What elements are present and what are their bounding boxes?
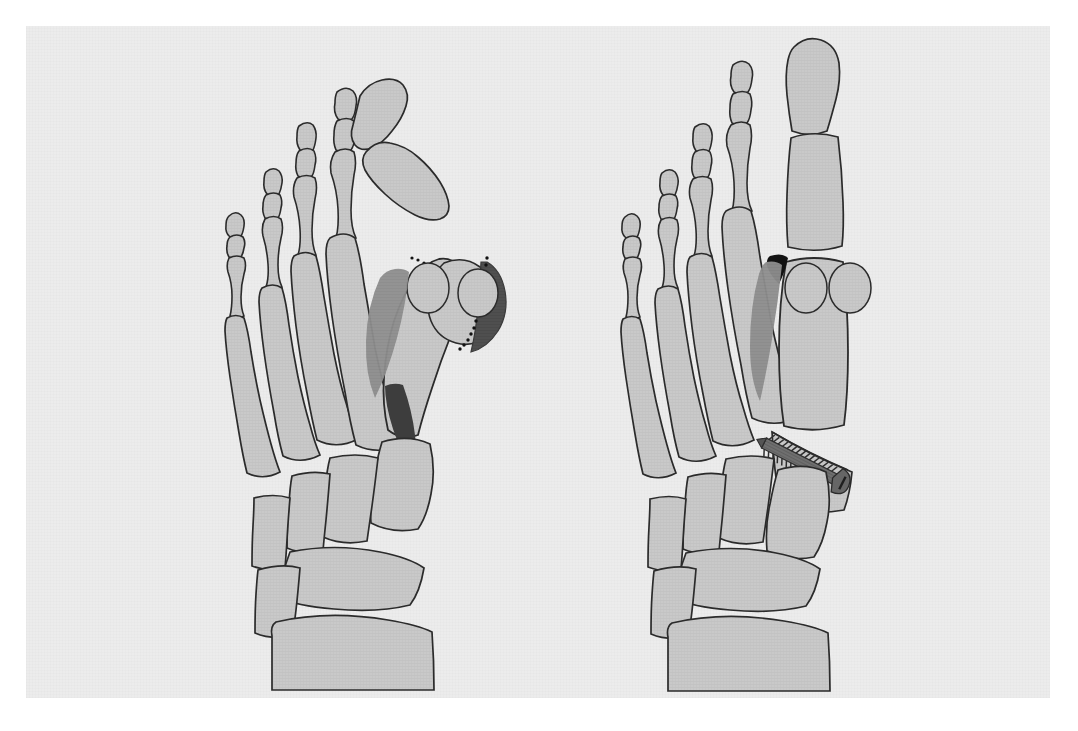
proximal-phalanx-3 [293,176,316,258]
illustration-figure [0,0,1078,731]
distal-phalanx-4-postop [660,170,678,197]
distal-phalanx-3-postop [693,124,712,153]
distal-phalanx-1-postop [786,39,839,135]
middle-phalanx-5-postop [623,236,641,260]
distal-phalanx-3 [297,123,316,152]
middle-phalanx-5 [227,235,245,259]
middle-phalanx-3-postop [692,150,712,180]
hallux-postop-corrected [779,39,848,430]
distal-phalanx-4 [264,169,282,196]
distal-phalanx-1-preop [351,79,407,149]
sesamoid-medial-preop [407,263,449,313]
panel-postoperative [621,39,871,691]
middle-phalanx-3 [296,149,316,179]
medial-cuneiform-postop [766,466,829,558]
foot-skeleton-illustration [0,0,1078,731]
lateral-cuneiform-postop [683,473,726,553]
distal-phalanx-2 [334,88,356,121]
cuboid-preop [252,496,290,570]
distal-phalanx-2-postop [730,61,752,94]
middle-phalanx-2-postop [730,92,752,126]
cuboid-postop [648,497,686,571]
middle-phalanx-4-postop [659,194,678,221]
calcaneus-preop [272,615,435,690]
lateral-cuneiform-preop [287,472,330,552]
calcaneus-postop [668,616,831,691]
proximal-phalanx-5 [227,256,245,318]
middle-phalanx-4 [263,193,282,220]
proximal-phalanx-2 [331,149,357,241]
intermediate-cuneiform-preop [323,455,378,543]
medial-cuneiform-preop [370,438,433,530]
sesamoid-medial-postop [785,263,827,313]
proximal-phalanx-3-postop [689,177,712,259]
proximal-phalanx-4-postop [658,218,678,291]
proximal-phalanx-1-preop [363,142,449,220]
proximal-phalanx-5-postop [623,257,641,319]
sesamoid-lateral-postop [829,263,871,313]
panel-preoperative [225,79,506,690]
proximal-phalanx-4 [262,217,282,290]
proximal-phalanx-1-postop [787,134,844,251]
sesamoid-lateral-preop [458,269,498,317]
proximal-phalanx-2-postop [727,122,753,214]
